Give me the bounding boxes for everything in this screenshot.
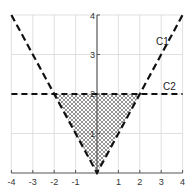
x-tick-label: -1: [72, 177, 80, 187]
x-tick-label: -4: [7, 177, 15, 187]
x-tick-label: 3: [159, 177, 164, 187]
x-tick-label: 2: [137, 177, 142, 187]
y-tick-label: 4: [90, 11, 95, 21]
x-tick-label: 4: [180, 177, 185, 187]
y-tick-label: 3: [90, 50, 95, 60]
x-tick-label: 1: [116, 177, 121, 187]
label-c1: C1: [156, 36, 169, 47]
x-tick-label: -2: [50, 177, 58, 187]
x-tick-labels: -4 -3 -2 -1 1 2 3 4: [7, 177, 185, 187]
chart: -4 -3 -2 -1 1 2 3 4 1 2 3 4 C1 C2: [0, 0, 190, 191]
label-c2: C2: [163, 81, 176, 92]
x-tick-label: -3: [29, 177, 37, 187]
y-tick-label: 2: [90, 89, 95, 99]
y-tick-label: 1: [90, 129, 95, 139]
